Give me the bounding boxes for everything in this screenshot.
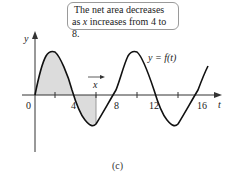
tick-label-12: 12: [149, 100, 159, 111]
t-axis-label: t: [218, 99, 221, 110]
tick-label-4: 4: [71, 100, 76, 111]
origin-label: 0: [26, 100, 31, 111]
y-axis-arrow-icon: [32, 31, 38, 39]
figure-caption: (c): [112, 160, 123, 171]
t-axis-arrow-icon: [214, 92, 222, 98]
chart-plot: 0 4 8 12 16 t y y = f(t) x: [0, 0, 232, 180]
x-arrow-head-icon: [100, 75, 105, 79]
tick-label-8: 8: [114, 100, 119, 111]
curve-label: y = f(t): [147, 52, 177, 64]
tick-label-16: 16: [197, 100, 207, 111]
shaded-area: [35, 51, 96, 124]
y-axis-label: y: [23, 33, 29, 44]
x-marker-label: x: [92, 79, 98, 90]
